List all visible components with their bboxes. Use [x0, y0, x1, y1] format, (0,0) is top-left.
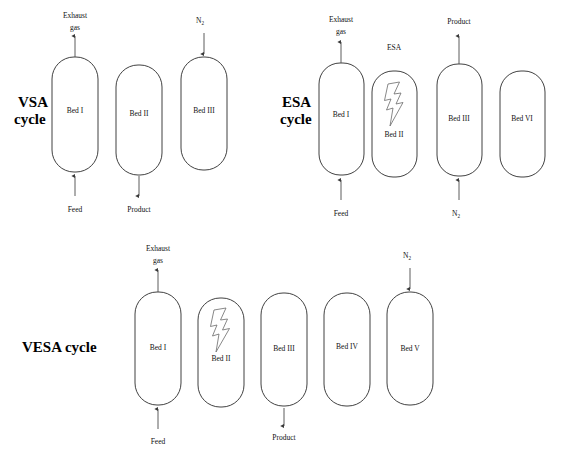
- stream-label-vesa-product: Product: [272, 433, 296, 442]
- bed-label-vesa-2: Bed II: [212, 354, 231, 363]
- stream-label-vesa-exhaust-line1: Exhaust: [146, 244, 171, 253]
- cycle-label-vsa-line1: VSA: [18, 94, 48, 110]
- vessel-esa-bed-1: [319, 63, 364, 175]
- bed-label-esa-4: Bed VI: [511, 114, 533, 123]
- stream-label-vsa-exhaust-line1: Exhaust: [63, 11, 88, 20]
- bed-label-esa-3: Bed III: [448, 114, 470, 123]
- stream-label-vsa-n2-sub: 2: [201, 20, 204, 26]
- vessel-esa-bed-4: [500, 71, 545, 177]
- vessel-vsa-bed-2: [116, 65, 162, 175]
- stream-label-vesa-feed: Feed: [151, 437, 166, 446]
- esa-tag-label: ESA: [387, 43, 402, 52]
- cycle-label-esa-line1: ESA: [282, 94, 311, 110]
- stream-label-esa-product: Product: [447, 17, 471, 26]
- stream-label-vsa-feed: Feed: [68, 205, 83, 214]
- stream-label-esa-n2-sub: 2: [457, 213, 460, 219]
- bed-label-vesa-5: Bed V: [400, 344, 420, 353]
- stream-label-esa-exhaust-line1: Exhaust: [329, 15, 354, 24]
- bed-label-vesa-4: Bed IV: [336, 342, 358, 351]
- bed-label-esa-2: Bed II: [385, 130, 404, 139]
- stream-label-vesa-exhaust-line2: gas: [153, 256, 163, 265]
- bed-label-vsa-1: Bed I: [67, 106, 84, 115]
- stream-label-vsa-product: Product: [127, 205, 151, 214]
- stream-label-esa-feed: Feed: [334, 209, 349, 218]
- cycle-label-vesa-line1: VESA cycle: [22, 339, 97, 355]
- cycle-label-esa-line2: cycle: [280, 111, 312, 127]
- stream-label-vsa-exhaust-line2: gas: [70, 23, 80, 32]
- bed-label-vsa-3: Bed III: [193, 106, 215, 115]
- bed-label-vesa-3: Bed III: [273, 344, 295, 353]
- cycle-label-vsa-line2: cycle: [14, 111, 46, 127]
- process-flow-diagram: VSA cycle Bed I Bed II Bed III Exhaust g…: [0, 0, 562, 453]
- stream-label-vesa-n2-sub: 2: [408, 255, 411, 261]
- bed-label-vesa-1: Bed I: [150, 343, 167, 352]
- bed-label-esa-1: Bed I: [333, 110, 350, 119]
- stream-label-esa-exhaust-line2: gas: [336, 27, 346, 36]
- bed-label-vsa-2: Bed II: [130, 109, 149, 118]
